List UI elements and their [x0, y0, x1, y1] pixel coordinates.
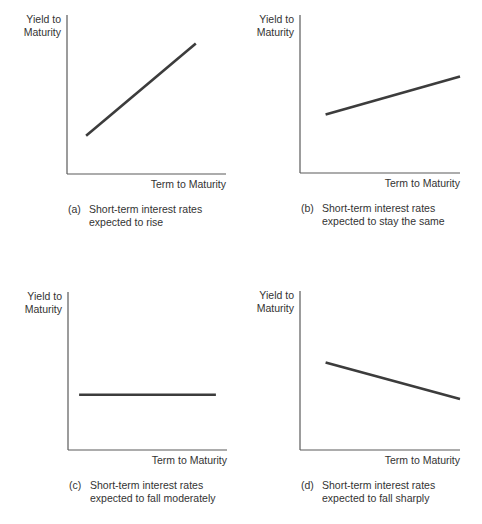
chart-panel-a: Yield toMaturityTerm to Maturity(a)Short… — [0, 0, 241, 262]
y-axis-label: Yield toMaturity — [257, 289, 294, 315]
caption-tag: (c) — [69, 479, 81, 492]
yield-curve-line-a — [86, 44, 196, 136]
x-axis-label: Term to Maturity — [385, 177, 460, 190]
y-axis-label-line: Yield to — [25, 290, 62, 303]
y-axis-label-line: Maturity — [25, 303, 62, 316]
y-axis-label-line: Maturity — [24, 26, 61, 39]
y-axis-label: Yield toMaturity — [24, 13, 61, 39]
yield-curve-line-d — [326, 363, 460, 400]
caption-tag: (a) — [68, 203, 81, 216]
x-axis-label: Term to Maturity — [385, 454, 460, 467]
y-axis-label: Yield toMaturity — [257, 13, 294, 39]
caption-tag: (b) — [301, 202, 314, 215]
x-axis-label: Term to Maturity — [151, 178, 226, 191]
chart-panel-b: Yield toMaturityTerm to Maturity(b)Short… — [233, 0, 474, 262]
chart-panel-c: Yield toMaturityTerm to Maturity(c)Short… — [0, 276, 241, 524]
caption-line: expected to stay the same — [322, 215, 482, 228]
y-axis-label-line: Yield to — [257, 289, 294, 302]
yield-curve-line-b — [326, 77, 460, 115]
y-axis-label-line: Yield to — [24, 13, 61, 26]
caption-line: expected to fall sharply — [322, 492, 482, 505]
caption-tag: (d) — [301, 479, 314, 492]
y-axis-label-line: Maturity — [257, 302, 294, 315]
caption-text: Short-term interest ratesexpected to sta… — [322, 202, 482, 228]
chart-panel-d: Yield toMaturityTerm to Maturity(d)Short… — [233, 276, 474, 524]
caption-line: Short-term interest rates — [322, 202, 482, 215]
caption-text: Short-term interest ratesexpected to fal… — [322, 479, 482, 505]
y-axis-label: Yield toMaturity — [25, 290, 62, 316]
x-axis-label: Term to Maturity — [152, 454, 227, 467]
y-axis-label-line: Yield to — [257, 13, 294, 26]
caption-line: Short-term interest rates — [322, 479, 482, 492]
y-axis-label-line: Maturity — [257, 26, 294, 39]
